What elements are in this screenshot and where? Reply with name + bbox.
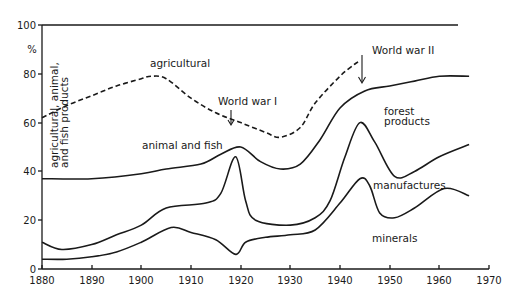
chart-container: 100 80 60 40 20 0 % 1880 1890 1900 1910 … — [0, 0, 514, 302]
x-tick-1960: 1960 — [426, 275, 451, 286]
vertical-label-line-2: and fish products — [58, 77, 70, 168]
y-tick-60: 60 — [23, 118, 36, 129]
x-tick-1910: 1910 — [178, 275, 203, 286]
y-tick-0: 0 — [30, 264, 36, 275]
vertical-label: agricultural, animal, and fish products — [48, 62, 70, 168]
x-tick-1950: 1950 — [377, 275, 402, 286]
x-tick-1900: 1900 — [128, 275, 153, 286]
series-animal-and-fish — [42, 76, 469, 179]
x-tick-1930: 1930 — [277, 275, 302, 286]
x-tick-labels: 1880 1890 1900 1910 1920 1930 1940 1950 … — [29, 275, 501, 286]
x-tick-1970: 1970 — [476, 275, 501, 286]
x-tick-1940: 1940 — [327, 275, 352, 286]
annotation-arrows — [228, 55, 366, 125]
x-tick-1890: 1890 — [79, 275, 104, 286]
label-products: products — [384, 115, 430, 127]
y-tick-20: 20 — [23, 215, 36, 226]
label-manufactures: manufactures — [373, 179, 446, 191]
axes — [38, 25, 489, 269]
annotations: agricultural World war I World war II an… — [48, 44, 446, 244]
y-tick-labels: 100 80 60 40 20 0 % — [17, 20, 37, 275]
x-tick-1920: 1920 — [228, 275, 253, 286]
y-tick-80: 80 — [23, 69, 36, 80]
x-tick-1880: 1880 — [29, 275, 54, 286]
label-world-war-1: World war I — [218, 95, 277, 107]
label-animal-and-fish: animal and fish — [142, 139, 223, 151]
series-agricultural — [42, 62, 360, 138]
y-tick-40: 40 — [23, 166, 36, 177]
y-unit-percent: % — [27, 44, 37, 55]
y-tick-100: 100 — [17, 20, 36, 31]
series-layer — [42, 62, 469, 260]
label-world-war-2: World war II — [372, 44, 434, 56]
label-minerals: minerals — [372, 232, 417, 244]
label-agricultural: agricultural — [150, 57, 210, 69]
line-chart: 100 80 60 40 20 0 % 1880 1890 1900 1910 … — [0, 0, 514, 302]
